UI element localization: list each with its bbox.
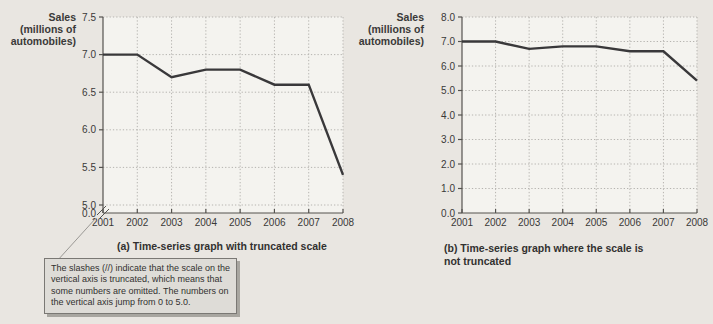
- x-tick-label: 2005: [585, 217, 608, 228]
- chart-a-y-axis-title: Sales (millions of automobiles): [0, 11, 76, 47]
- caption-line: (b) Time-series graph where the scale is: [444, 242, 643, 255]
- x-tick-label: 2006: [619, 217, 642, 228]
- y-axis-title-line: Sales: [357, 11, 424, 23]
- y-tick-label: 6.5: [82, 87, 96, 98]
- chart-b-y-axis-title: Sales (millions of automobiles): [357, 11, 424, 47]
- x-tick-label: 2005: [229, 217, 252, 228]
- x-tick-label: 2007: [652, 217, 675, 228]
- y-tick-label: 7.0: [441, 36, 455, 47]
- x-tick-label: 2003: [518, 217, 541, 228]
- truncation-explanation-callout: The slashes (//) indicate that the scale…: [44, 258, 237, 314]
- callout-leader-line: [57, 218, 96, 261]
- chart-b-full-scale: 8.07.06.05.04.03.02.01.00.02001200220032…: [357, 0, 713, 324]
- chart-a-caption: (a) Time-series graph with truncated sca…: [117, 240, 327, 253]
- y-tick-label: 5.0: [441, 85, 455, 96]
- x-tick-label: 2004: [552, 217, 575, 228]
- y-tick-label: 7.0: [82, 49, 96, 60]
- x-tick-label: 2006: [263, 217, 286, 228]
- x-tick-label: 2002: [484, 217, 507, 228]
- x-tick-label: 2008: [332, 217, 355, 228]
- caption-line: not truncated: [444, 255, 643, 268]
- x-tick-label: 2008: [686, 217, 709, 228]
- x-tick-label: 2004: [195, 217, 218, 228]
- callout-text-line: The slashes (//) indicate that the scale…: [51, 263, 230, 274]
- plot-area: [103, 17, 343, 213]
- y-tick-label: 6.0: [441, 61, 455, 72]
- x-tick-label: 2003: [160, 217, 183, 228]
- figure-truncated-scale-comparison: 7.57.06.56.05.55.00.02001200220032004200…: [0, 0, 713, 324]
- y-tick-label: 5.5: [82, 162, 96, 173]
- x-tick-label: 2007: [298, 217, 321, 228]
- callout-text-line: some numbers are omitted. The numbers on: [51, 286, 230, 297]
- y-axis-title-line: (millions of: [357, 23, 424, 35]
- y-tick-label: 6.0: [82, 124, 96, 135]
- y-tick-label: 4.0: [441, 110, 455, 121]
- y-tick-label: 2.0: [441, 159, 455, 170]
- callout-text-line: vertical axis is truncated, which means …: [51, 274, 230, 285]
- y-tick-label: 1.0: [441, 183, 455, 194]
- x-tick-label: 2002: [126, 217, 149, 228]
- y-axis-title-line: automobiles): [0, 35, 76, 47]
- y-axis-title-line: automobiles): [357, 35, 424, 47]
- chart-b-caption: (b) Time-series graph where the scale is…: [444, 242, 643, 267]
- y-tick-label: 3.0: [441, 134, 455, 145]
- y-axis-title-line: (millions of: [0, 23, 76, 35]
- callout-text-line: the vertical axis jump from 0 to 5.0.: [51, 297, 230, 308]
- y-tick-label: 8.0: [441, 12, 455, 23]
- y-axis-title-line: Sales: [0, 11, 76, 23]
- y-tick-label: 7.5: [82, 12, 96, 23]
- caption-line: (a) Time-series graph with truncated sca…: [117, 240, 327, 253]
- x-tick-label: 2001: [451, 217, 474, 228]
